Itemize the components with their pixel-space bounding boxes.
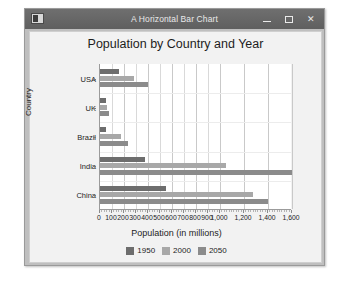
bar-brazil-1950[interactable] (100, 127, 106, 132)
x-tick-mark (161, 210, 162, 212)
x-tick-mark (284, 210, 285, 212)
x-tick-mark (267, 210, 268, 213)
x-tick-mark (241, 210, 242, 212)
x-tick-mark (217, 210, 218, 212)
x-tick-label: 1,600 (282, 214, 299, 221)
x-axis-title: Population (in millions) (30, 228, 323, 238)
application-window: A Horizontal Bar Chart ✕ Population by C… (24, 8, 325, 266)
x-tick-mark (104, 210, 105, 212)
bar-usa-1950[interactable] (100, 69, 119, 74)
legend-item-2050[interactable]: 2050 (198, 246, 227, 255)
bar-india-2050[interactable] (100, 170, 292, 175)
x-tick-mark (250, 210, 251, 212)
x-tick-mark (154, 210, 155, 212)
x-tick-mark (281, 210, 282, 212)
bar-india-1950[interactable] (100, 157, 145, 162)
x-tick-label: 0 (97, 214, 101, 221)
x-tick-mark (202, 210, 203, 212)
x-tick-mark (99, 210, 100, 213)
x-tick-mark (188, 210, 189, 212)
x-tick-mark (279, 210, 280, 212)
x-tick-mark (111, 210, 112, 213)
bar-brazil-2050[interactable] (100, 141, 128, 146)
legend-swatch-1950 (126, 247, 134, 255)
x-tick-mark (209, 210, 210, 212)
bar-china-2050[interactable] (100, 199, 268, 204)
x-tick-mark (190, 210, 191, 212)
x-tick-mark (145, 210, 146, 212)
x-tick-mark (140, 210, 141, 212)
bar-brazil-2000[interactable] (100, 134, 121, 139)
x-tick-label: 300 (129, 214, 140, 221)
x-tick-mark (181, 210, 182, 212)
x-tick-mark (164, 210, 165, 212)
y-tick-label-usa: USA (50, 75, 96, 84)
x-tick-mark (183, 210, 184, 213)
x-tick-label: 200 (117, 214, 128, 221)
x-tick-label: 600 (165, 214, 176, 221)
chart-legend: 195020002050 (30, 246, 323, 255)
x-tick-label: 100 (105, 214, 116, 221)
x-tick-mark (277, 210, 278, 212)
close-icon: ✕ (307, 15, 315, 24)
legend-item-1950[interactable]: 1950 (126, 246, 155, 255)
bar-china-2000[interactable] (100, 192, 253, 197)
x-tick-mark (176, 210, 177, 212)
x-tick-mark (193, 210, 194, 212)
bar-usa-2050[interactable] (100, 82, 148, 87)
x-tick-label: 1,000 (210, 214, 227, 221)
x-tick-mark (157, 210, 158, 212)
x-tick-mark (128, 210, 129, 212)
x-tick-mark (142, 210, 143, 212)
x-tick-mark (152, 210, 153, 212)
window-title-bar[interactable]: A Horizontal Bar Chart ✕ (25, 9, 324, 29)
x-tick-mark (269, 210, 270, 212)
x-tick-mark (118, 210, 119, 212)
x-tick-mark (207, 210, 208, 213)
x-tick-mark (147, 210, 148, 213)
x-tick-mark (185, 210, 186, 212)
legend-label-2050: 2050 (209, 246, 227, 255)
x-tick-mark (123, 210, 124, 213)
minimize-button[interactable] (256, 11, 277, 27)
x-tick-mark (197, 210, 198, 212)
bar-china-1950[interactable] (100, 186, 166, 191)
x-tick-label: 1,400 (258, 214, 275, 221)
x-tick-mark (135, 210, 136, 213)
close-button[interactable]: ✕ (300, 11, 321, 27)
x-tick-mark (286, 210, 287, 212)
bar-group (100, 93, 291, 122)
x-tick-mark (137, 210, 138, 212)
legend-swatch-2000 (162, 247, 170, 255)
x-tick-label: 400 (141, 214, 152, 221)
x-tick-mark (219, 210, 220, 213)
bar-india-2000[interactable] (100, 163, 226, 168)
x-tick-mark (248, 210, 249, 212)
gridline (292, 64, 293, 209)
x-tick-mark (178, 210, 179, 212)
x-tick-mark (291, 210, 292, 213)
bar-uk-2000[interactable] (100, 105, 107, 110)
window-controls: ✕ (256, 9, 321, 29)
x-tick-mark (166, 210, 167, 212)
x-tick-mark (233, 210, 234, 212)
legend-label-2000: 2000 (173, 246, 191, 255)
legend-label-1950: 1950 (137, 246, 155, 255)
x-tick-mark (243, 210, 244, 213)
x-tick-mark (159, 210, 160, 213)
bar-usa-2000[interactable] (100, 76, 134, 81)
bar-uk-1950[interactable] (100, 98, 106, 103)
y-tick-mark (93, 108, 96, 109)
x-tick-mark (274, 210, 275, 212)
y-tick-label-india: India (50, 162, 96, 171)
x-tick-mark (260, 210, 261, 212)
x-tick-mark (226, 210, 227, 212)
bar-group (100, 122, 291, 151)
maximize-button[interactable] (278, 11, 299, 27)
bar-uk-2050[interactable] (100, 111, 109, 116)
x-tick-mark (113, 210, 114, 212)
legend-item-2000[interactable]: 2000 (162, 246, 191, 255)
y-axis-tick-labels: USAUKBrazilIndiaChina (30, 64, 96, 210)
screenshot-root: A Horizontal Bar Chart ✕ Population by C… (0, 0, 349, 291)
y-tick-label-brazil: Brazil (50, 133, 96, 142)
